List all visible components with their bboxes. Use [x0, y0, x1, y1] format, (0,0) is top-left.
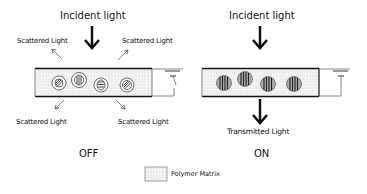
- droplet-horizontal-icon: [94, 78, 108, 92]
- on-state-label: ON: [254, 149, 269, 159]
- incident-arrow-icon: [253, 26, 267, 48]
- off-circuit-switch-open-icon: [152, 69, 183, 96]
- off-scattered-label-bottom-left: Scattered Light: [16, 119, 67, 126]
- droplet-aligned-icon: [238, 72, 253, 87]
- transmitted-arrow-icon: [253, 99, 267, 123]
- droplet-diagonal-icon: [52, 76, 66, 90]
- legend-label-polymer-matrix: Polymer Matrix: [171, 171, 220, 178]
- on-incident-label: Incident light: [229, 11, 295, 21]
- off-scattered-label-top-right: Scattered Light: [122, 38, 173, 45]
- on-transmitted-label: Transmitted Light: [227, 128, 289, 136]
- off-incident-label: Incident light: [60, 11, 126, 21]
- off-scattered-label-top-left: Scattered Light: [17, 38, 68, 45]
- off-scattered-label-bottom-right: Scattered Light: [118, 119, 169, 126]
- off-state-label: OFF: [79, 149, 98, 159]
- droplet-vertical-icon: [72, 73, 87, 88]
- incident-arrow-icon: [85, 26, 99, 48]
- on-panel: [202, 26, 350, 123]
- droplet-diagonal-icon: [120, 78, 134, 92]
- droplet-aligned-icon: [217, 76, 232, 91]
- diagram-canvas: [0, 0, 367, 194]
- legend-swatch-polymer-matrix: [145, 167, 167, 181]
- on-circuit-closed-icon: [319, 69, 350, 96]
- droplet-aligned-icon: [261, 77, 276, 92]
- droplet-aligned-icon: [287, 77, 302, 92]
